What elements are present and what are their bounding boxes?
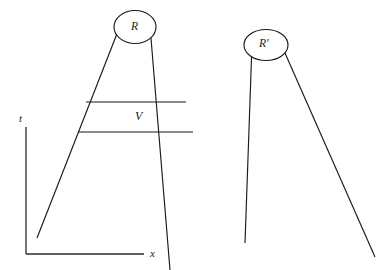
diagram-canvas [0, 0, 391, 270]
region-R-prime-label: R' [259, 38, 268, 50]
region-R-prime-left-leg [245, 44, 252, 243]
region-R-label: R [131, 21, 138, 33]
region-R-prime-right-leg [281, 44, 375, 257]
region-R-right-leg [150, 26, 170, 270]
region-R-prime-triangle [245, 44, 375, 257]
x-axis-label: x [150, 248, 155, 259]
t-axis-label: t [19, 113, 22, 124]
band-V-label: V [135, 110, 142, 122]
spacetime-diagram-figure: R R' t x V [0, 0, 391, 270]
axes-group [26, 127, 144, 254]
region-R-triangle [37, 26, 170, 270]
